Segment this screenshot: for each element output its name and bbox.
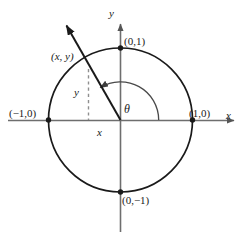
terminal-ray xyxy=(67,26,121,121)
terminal-point-label: (x, y) xyxy=(51,51,74,62)
point-bottom-label: (0,−1) xyxy=(122,195,149,206)
angle-label: θ xyxy=(124,103,130,115)
vertical-leg-label: y xyxy=(74,87,79,98)
point-right-label: (1,0) xyxy=(189,108,210,119)
unit-circle-figure: y x (0,1) (0,−1) (−1,0) (1,0) (x, y) y x… xyxy=(0,0,247,242)
horizontal-leg-label: x xyxy=(97,127,102,138)
y-axis-label: y xyxy=(109,8,114,19)
point-left-label: (−1,0) xyxy=(9,108,36,119)
point-top-label: (0,1) xyxy=(124,36,145,47)
x-axis-label: x xyxy=(226,110,231,121)
point-left xyxy=(46,117,51,122)
point-top xyxy=(118,45,123,50)
